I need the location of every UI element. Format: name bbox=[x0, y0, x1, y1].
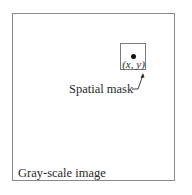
gray-scale-image-label: Gray-scale image bbox=[18, 166, 106, 180]
spatial-mask-label: Spatial mask bbox=[69, 82, 133, 96]
